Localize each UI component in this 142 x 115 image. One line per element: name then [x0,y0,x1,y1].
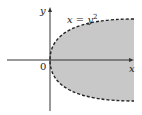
x-axis-label: x [129,63,135,74]
curve-label: x = y2 [67,13,98,25]
origin-label: 0 [40,61,46,72]
region-diagram: y x 0 x = y2 [0,0,142,115]
y-axis-arrow-icon [48,7,52,12]
y-axis-label: y [39,5,46,16]
